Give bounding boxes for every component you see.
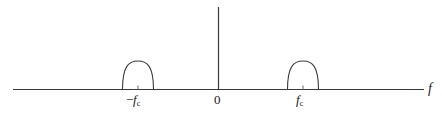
spectrum-figure: −fc 0 fc f [0,0,442,118]
spectrum-lobe-positive [288,61,319,90]
tick-label-origin: 0 [214,93,221,106]
spectrum-lobe-negative [123,61,154,90]
tick-label-neg-fc-subscript: c [137,99,141,108]
tick-label-neg-fc: −fc [126,93,140,108]
tick-label-pos-fc-subscript: c [300,99,304,108]
tick-label-pos-fc: fc [296,93,303,108]
figure-canvas [0,0,442,118]
frequency-axis-label: f [428,82,432,96]
